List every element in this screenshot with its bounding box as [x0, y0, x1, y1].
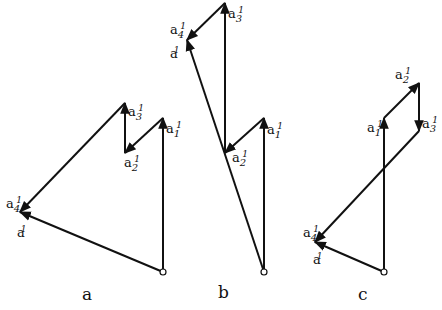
label-a3-fig-a: a31	[128, 104, 148, 122]
label-aprime-fig-a: a1	[17, 225, 31, 239]
label-a1-fig-a: a11	[166, 121, 186, 139]
label-a3-fig-c: a31	[422, 116, 442, 134]
label-a2-fig-b: a21	[232, 150, 252, 168]
label-a4-fig-c: a41	[303, 225, 323, 243]
label-a1-fig-c: a11	[367, 120, 387, 138]
label-aprime-fig-c: a1	[313, 252, 327, 266]
vector-polygon-diagram: a31 a11 a21 a41 a1 a31 a41 a1 a11 a21 a2…	[0, 0, 442, 310]
label-a1-fig-b: a11	[267, 122, 287, 140]
caption-c: c	[358, 284, 368, 304]
figure-c	[315, 83, 419, 275]
label-a2-fig-c: a21	[395, 67, 415, 85]
label-a2-fig-a: a21	[124, 155, 144, 173]
caption-a: a	[82, 284, 92, 304]
caption-b: b	[218, 282, 229, 302]
label-aprime-fig-b: a1	[170, 46, 184, 60]
label-a4-fig-a: a41	[6, 196, 26, 214]
figure-b	[187, 3, 267, 275]
label-a4-fig-b: a41	[170, 22, 190, 40]
diagram-canvas	[0, 0, 442, 310]
label-a3-fig-b: a31	[228, 6, 248, 24]
figure-a	[20, 103, 166, 275]
